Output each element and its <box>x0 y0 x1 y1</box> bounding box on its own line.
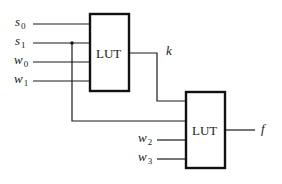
input-subscript: 1 <box>21 40 26 50</box>
input-subscript: 0 <box>21 21 26 31</box>
input-label-w1: w1 <box>14 72 28 85</box>
lut2-label: LUT <box>192 123 217 139</box>
input-name: s <box>15 14 20 29</box>
input-name: w <box>14 52 23 67</box>
input-name: s <box>15 33 20 48</box>
output-label-f: f <box>261 122 265 135</box>
lut1-label: LUT <box>96 46 121 62</box>
input-name: w <box>138 149 147 164</box>
input-label-w3: w3 <box>138 150 152 163</box>
input-label-s0: s0 <box>15 15 26 28</box>
lut-circuit-diagram: LUT LUT s0 s1 w0 w1 w2 w3 k f <box>0 0 282 184</box>
input-name: w <box>138 130 147 145</box>
input-name: w <box>14 71 23 86</box>
wire-k <box>129 53 186 101</box>
input-label-w2: w2 <box>138 131 152 144</box>
input-subscript: 3 <box>148 156 153 166</box>
input-subscript: 1 <box>24 78 29 88</box>
input-subscript: 0 <box>24 59 29 69</box>
intermediate-label-k: k <box>166 44 172 57</box>
input-subscript: 2 <box>148 137 153 147</box>
input-label-w0: w0 <box>14 53 28 66</box>
input-label-s1: s1 <box>15 34 26 47</box>
